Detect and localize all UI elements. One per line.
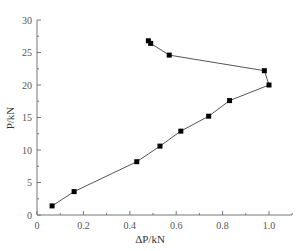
data-point-marker: [178, 129, 183, 134]
x-tick-label: 0.8: [216, 220, 229, 231]
data-point-marker: [167, 53, 172, 58]
plot-area: [50, 38, 272, 208]
y-axis-label: P/kN: [4, 107, 16, 130]
data-point-marker: [227, 98, 232, 103]
y-tick-label: 15: [22, 112, 32, 123]
series-line: [52, 41, 269, 206]
data-point-marker: [262, 68, 267, 73]
y-tick-label: 0: [27, 210, 32, 221]
y-tick-label: 25: [22, 47, 32, 58]
data-point-marker: [146, 38, 151, 43]
data-point-marker: [72, 189, 77, 194]
data-point-marker: [50, 203, 55, 208]
y-tick-label: 30: [22, 15, 32, 26]
y-tick-label: 20: [22, 80, 32, 91]
y-tick-label: 10: [22, 145, 32, 156]
chart: 00.20.40.60.81.0 051015202530 ΔP/kN P/kN: [0, 0, 302, 251]
data-point-marker: [157, 144, 162, 149]
data-point-marker: [267, 83, 272, 88]
y-ticks: 051015202530: [22, 15, 41, 221]
y-tick-label: 5: [27, 177, 32, 188]
data-point-marker: [134, 159, 139, 164]
x-ticks: 00.20.40.60.81.0: [35, 211, 293, 231]
x-tick-label: 0.2: [77, 220, 90, 231]
x-axis-label: ΔP/kN: [135, 233, 165, 245]
x-tick-label: 0.6: [170, 220, 183, 231]
x-tick-label: 0.4: [124, 220, 137, 231]
x-tick-label: 1.0: [263, 220, 276, 231]
x-tick-label: 0: [35, 220, 40, 231]
data-point-marker: [206, 114, 211, 119]
